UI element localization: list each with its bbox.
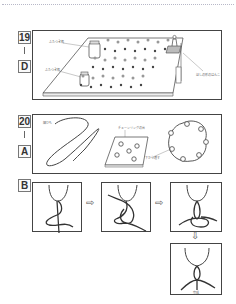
board-dot [122, 68, 124, 70]
board-dot [124, 48, 126, 50]
board-dot [154, 57, 157, 60]
board-dot [114, 50, 116, 52]
knot-step-3 [170, 182, 222, 232]
board-dot [137, 41, 140, 44]
step-letter-a: A [18, 145, 31, 158]
step-number-19: 19 [18, 31, 31, 44]
board-dot [80, 84, 82, 86]
ring-hole [181, 157, 186, 162]
step-number-20: 20 [18, 115, 31, 128]
board-dot [140, 84, 142, 86]
callout-board: チェーンリングの台 [118, 125, 145, 130]
knot-step-4-drawing: 完成 [171, 244, 223, 296]
knot-step-1-drawing [33, 183, 83, 233]
board-dot [104, 48, 106, 50]
board-dot [127, 39, 130, 42]
board-dot [134, 57, 137, 60]
ring-hole [185, 122, 190, 127]
board-dot [120, 84, 122, 86]
board-dot [112, 66, 114, 68]
ring-hole [197, 153, 202, 158]
board-dot [144, 59, 147, 62]
materials-illustration: 細ひも チェーンリングの台 下から通す [33, 115, 223, 175]
board-dot [152, 66, 154, 68]
board-dot [112, 77, 115, 80]
stamp-icon [166, 46, 181, 53]
board-dot [157, 41, 160, 44]
callout-jar-small: ふたつき瓶 [45, 67, 60, 72]
board-dot [130, 86, 132, 88]
callout-through: 下から通す [145, 155, 160, 160]
board-dot [124, 59, 127, 62]
board-dot [134, 50, 136, 52]
arrow-right-icon: ⇨ [155, 197, 163, 208]
callout-jar-large: ふたつき瓶 [49, 39, 64, 44]
board-dot [142, 75, 145, 78]
board-dot [154, 50, 156, 52]
board-dot [114, 57, 117, 60]
arrow-right-icon: ⇨ [86, 197, 94, 208]
board-dot [104, 59, 107, 62]
board-illustration: ふたつき瓶 ふたつき瓶 ほしの形のはんこ [33, 31, 223, 101]
step-letter-b: B [18, 179, 31, 192]
knot-step-3-drawing [171, 183, 223, 233]
arrow-down-icon: ⇩ [191, 230, 199, 241]
board-dot [90, 86, 92, 88]
string-icon [47, 118, 99, 166]
step-dash [24, 47, 25, 54]
board-dot [167, 39, 170, 42]
board-leg [176, 67, 181, 83]
board-top [43, 38, 183, 93]
knot-step-4: 完成 [170, 243, 222, 295]
board-dot [132, 77, 135, 80]
ring-hole [170, 147, 175, 152]
step-dash [24, 131, 25, 138]
board-dot [92, 77, 95, 80]
board-dot [110, 86, 112, 88]
board-dot [82, 75, 85, 78]
ring-hole [199, 127, 204, 132]
board-dot [94, 57, 97, 60]
board-dot [147, 39, 150, 42]
final-caption: 完成 [193, 290, 199, 295]
dotted-rule [2, 4, 234, 5]
board-dot [100, 84, 102, 86]
callout-string: 細ひも [43, 120, 52, 125]
board-dot [164, 48, 166, 50]
knot-step-1 [32, 182, 82, 232]
callout-stamp: ほしの形のはんこ [196, 72, 220, 77]
illustration-frame-19: ふたつき瓶 ふたつき瓶 ほしの形のはんこ [32, 30, 222, 100]
board-dot [144, 48, 146, 50]
step-letter-d: D [18, 60, 31, 73]
board-dot [102, 68, 104, 70]
board-dot [132, 66, 134, 68]
board-dot [142, 68, 144, 70]
knot-step-2-drawing [102, 183, 152, 233]
board-dot [122, 75, 125, 78]
ring-hole [169, 131, 174, 136]
board-dot [102, 75, 105, 78]
board-dot [92, 66, 94, 68]
board-edge [43, 93, 173, 96]
jar-icon [89, 43, 100, 58]
board-dot [107, 39, 110, 42]
knot-step-2 [101, 182, 151, 232]
board-dot [117, 41, 120, 44]
ring-hole [204, 140, 209, 145]
illustration-frame-20: 細ひも チェーンリングの台 下から通す [32, 114, 222, 174]
